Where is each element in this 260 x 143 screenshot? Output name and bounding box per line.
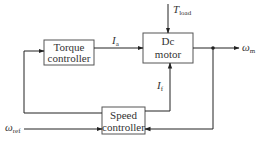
motor-speed-label: ωm	[242, 41, 256, 55]
torque-controller-label-line2: controller	[48, 52, 91, 64]
speed-controller-block: Speed controller	[102, 107, 145, 134]
speed-controller-label-line1: Speed	[110, 109, 137, 121]
block-diagram: Torque controller Dc motor Speed control…	[0, 0, 260, 143]
dc-motor-label-line2: motor	[155, 48, 182, 60]
dc-motor-label-line1: Dc	[162, 35, 175, 47]
armature-current-label: Ia	[111, 34, 120, 48]
speed-controller-label-line2: controller	[102, 121, 145, 133]
field-current-label: If	[156, 79, 164, 93]
reference-speed-label: ωref	[5, 121, 21, 135]
dc-motor-block: Dc motor	[143, 33, 193, 63]
load-torque-label: Tload	[173, 3, 192, 17]
torque-controller-block: Torque controller	[44, 40, 94, 65]
